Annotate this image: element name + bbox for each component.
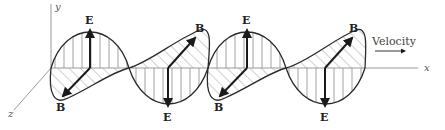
velocity-label: Velocity xyxy=(371,35,417,48)
z-axis-label: z xyxy=(7,108,14,119)
y-axis-label: y xyxy=(54,1,61,12)
b-label-3: B xyxy=(214,101,223,114)
b-label-1: B xyxy=(56,101,65,114)
x-axis-label: x xyxy=(424,62,430,73)
e-label-1: E xyxy=(85,14,93,27)
e-label-4: E xyxy=(320,111,328,124)
b-label-2: B xyxy=(195,22,204,35)
b-label-4: B xyxy=(349,22,358,35)
e-label-3: E xyxy=(242,14,250,27)
z-axis xyxy=(14,68,51,110)
e-label-2: E xyxy=(163,111,171,124)
em-wave-diagram: y x z Velocity E B E B E B E B xyxy=(0,0,445,130)
